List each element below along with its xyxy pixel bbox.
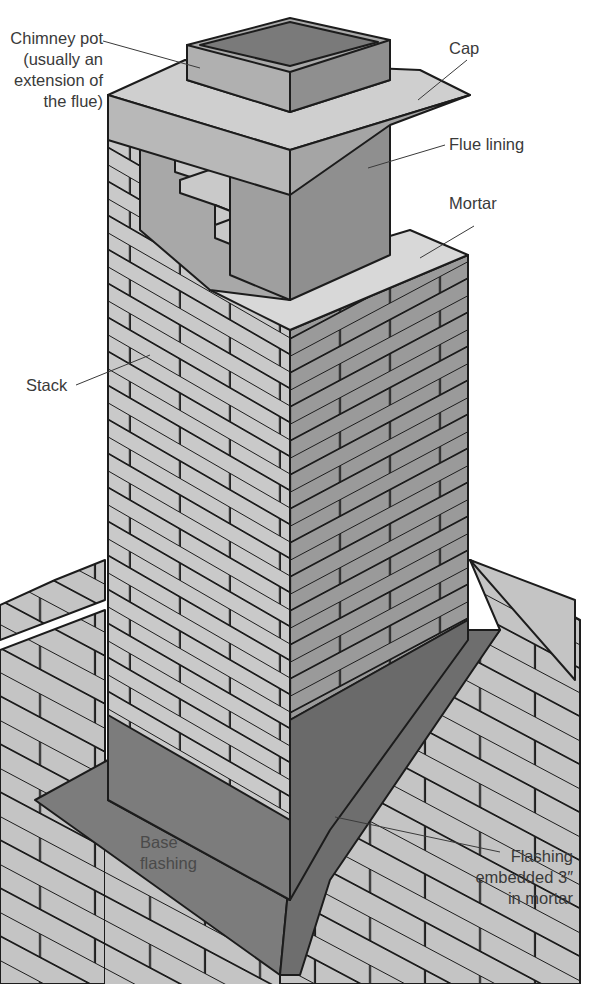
label-flue-lining: Flue lining <box>449 134 524 155</box>
label-stack: Stack <box>26 375 67 396</box>
label-base-flashing: Base flashing <box>140 832 197 874</box>
label-mortar: Mortar <box>449 193 497 214</box>
label-flashing-embedded: Flashing embedded 3″ in mortar <box>460 846 573 909</box>
label-chimney-pot: Chimney pot (usually an extension of the… <box>0 28 103 112</box>
label-cap: Cap <box>449 38 479 59</box>
